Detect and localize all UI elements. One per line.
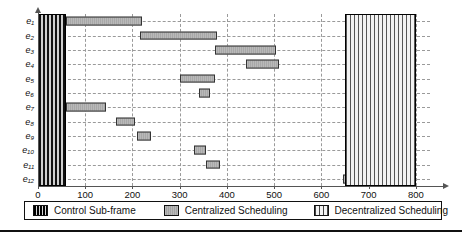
legend-item-centralized-scheduling: Centralized Scheduling xyxy=(164,205,288,216)
x-tick-label: 400 xyxy=(219,189,235,200)
gridline-vertical xyxy=(132,14,133,186)
y-axis-ticks: e₁e₂e₃e₄e₅e₆e₇e₈e₉e₁₀e₁₁e₁₂ xyxy=(6,14,34,186)
y-tick-label: e₈ xyxy=(25,117,34,127)
y-tick-label: e₁₂ xyxy=(23,174,34,184)
y-tick-label: e₁₁ xyxy=(23,160,34,170)
control-swatch-icon xyxy=(33,205,48,216)
x-axis-arrow-icon xyxy=(443,183,449,189)
decentralized-swatch-icon xyxy=(314,205,329,216)
gridline-vertical xyxy=(321,14,322,186)
centralized-swatch-icon xyxy=(164,205,179,216)
gridline-vertical xyxy=(416,14,417,186)
y-tick-label: e₃ xyxy=(25,45,34,55)
x-tick-label: 200 xyxy=(125,189,141,200)
centralized-scheduling-bar xyxy=(180,74,215,83)
centralized-scheduling-bar xyxy=(199,88,211,97)
y-tick-label: e₆ xyxy=(25,88,34,98)
y-axis-arrow-icon xyxy=(35,7,41,13)
legend-item-control-sub-frame: Control Sub-frame xyxy=(33,205,136,216)
x-tick-label: 500 xyxy=(266,189,282,200)
gridline-vertical xyxy=(274,14,275,186)
legend-label: Control Sub-frame xyxy=(54,205,136,216)
control-sub-frame-block xyxy=(38,14,66,186)
centralized-scheduling-bar xyxy=(116,117,135,126)
legend-label: Decentralized Scheduling xyxy=(335,205,448,216)
x-tick-label: 100 xyxy=(77,189,93,200)
y-tick-label: e₁₀ xyxy=(22,145,34,155)
centralized-scheduling-bar xyxy=(215,45,276,54)
plot-area xyxy=(38,14,430,186)
y-axis-line xyxy=(38,10,39,186)
centralized-scheduling-bar xyxy=(66,17,142,26)
legend-item-decentralized-scheduling: Decentralized Scheduling xyxy=(314,205,448,216)
y-tick-label: e₂ xyxy=(26,31,34,41)
gridline-vertical xyxy=(85,14,86,186)
x-tick-label: 800 xyxy=(408,189,424,200)
y-tick-label: e₄ xyxy=(25,59,34,69)
y-tick-label: e₅ xyxy=(25,74,34,84)
centralized-scheduling-bar xyxy=(194,146,206,155)
bottom-divider xyxy=(0,230,462,232)
scheduling-gantt-chart: 0100200300400500600700800 e₁e₂e₃e₄e₅e₆e₇… xyxy=(0,0,462,236)
y-tick-label: e₉ xyxy=(25,131,34,141)
centralized-scheduling-bar xyxy=(246,60,279,69)
chart-legend: Control Sub-frame Centralized Scheduling… xyxy=(24,201,442,220)
legend-label: Centralized Scheduling xyxy=(185,205,288,216)
x-axis-line xyxy=(38,186,444,187)
centralized-scheduling-bar xyxy=(66,103,106,112)
y-tick-label: e₇ xyxy=(26,102,34,112)
gridline-vertical xyxy=(227,14,228,186)
centralized-scheduling-bar xyxy=(140,31,218,40)
centralized-scheduling-bar xyxy=(137,131,151,140)
centralized-scheduling-bar xyxy=(206,160,220,169)
x-tick-label: 700 xyxy=(361,189,377,200)
y-tick-label: e₁ xyxy=(26,16,34,26)
decentralized-scheduling-block xyxy=(345,14,416,186)
x-tick-label: 600 xyxy=(313,189,329,200)
x-tick-label: 0 xyxy=(35,189,40,200)
x-tick-label: 300 xyxy=(172,189,188,200)
